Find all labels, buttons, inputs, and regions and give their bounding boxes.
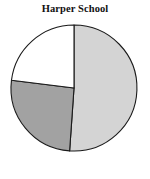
pie-chart-figure: Harper School <box>0 0 150 179</box>
pie-slice-2 <box>11 80 74 151</box>
pie-slice-1 <box>70 25 137 151</box>
pie-chart-graphic <box>0 0 150 179</box>
pie-slices-group <box>11 25 137 151</box>
pie-slice-3 <box>11 25 74 88</box>
